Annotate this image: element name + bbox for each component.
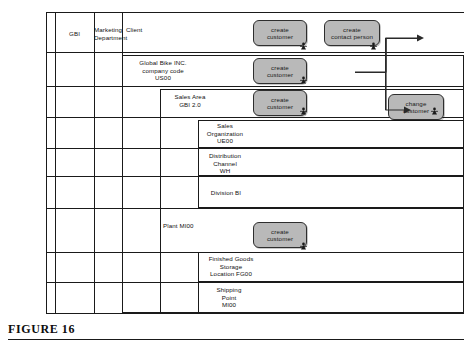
process-label-line2: customer xyxy=(267,33,293,40)
org-label-plant: Plant MI00 xyxy=(163,222,223,230)
actor-icon-create-customer-4 xyxy=(299,242,308,251)
org-label-sales-area-line1: Sales Area xyxy=(162,93,218,101)
connector-seg-b xyxy=(385,38,386,73)
org-label-sales-org-line2: Organization xyxy=(200,130,250,138)
org-label-shipping-line1: Shipping xyxy=(200,286,258,294)
process-label-line1: create xyxy=(267,228,293,235)
arrowhead-into-contact-person xyxy=(417,35,422,41)
org-label-dist-channel-line3: WH xyxy=(200,167,250,175)
org-label-storage-location: Finished Goods Storage Location FG00 xyxy=(200,255,262,278)
process-label-line2: contact person xyxy=(331,33,373,40)
process-label-line1: create xyxy=(267,96,293,103)
org-label-sales-org-line1: Sales xyxy=(200,122,250,130)
org-label-shipping-line3: MI00 xyxy=(200,301,258,309)
org-label-sales-org-line3: UE00 xyxy=(200,137,250,145)
lane-header-marketing-line1: Marketing xyxy=(94,26,122,34)
org-label-company-code: Global Bike INC. company code US00 xyxy=(124,59,202,82)
diagram-top-border xyxy=(46,12,464,13)
org-label-storage-line2: Storage xyxy=(200,263,262,271)
org-label-company-line2: company code xyxy=(124,67,202,75)
org-label-division-line1: Division BI xyxy=(200,189,252,197)
org-label-sales-organization: Sales Organization UE00 xyxy=(200,122,250,145)
org-label-company-line1: Global Bike INC. xyxy=(124,59,202,67)
org-label-sales-area: Sales Area GBI 2.0 xyxy=(162,93,218,108)
lane-divider-left xyxy=(46,12,47,313)
org-label-shipping-line2: Point xyxy=(200,294,258,302)
figure-caption: FIGURE 16 xyxy=(8,322,75,337)
org-label-plant-line1: Plant MI00 xyxy=(163,222,223,230)
figure-page: GBI Marketing Department Client Global B… xyxy=(0,0,464,343)
org-label-division: Division BI xyxy=(200,189,252,197)
org-label-shipping-point: Shipping Point MI00 xyxy=(200,286,258,309)
org-label-dist-channel-line2: Channel xyxy=(200,160,250,168)
org-label-dist-channel-line1: Distribution xyxy=(200,152,250,160)
connector-seg-a xyxy=(355,72,386,73)
diagram-bottom-border xyxy=(46,313,464,314)
process-label-line1: create xyxy=(267,64,293,71)
process-label-line2: customer xyxy=(267,103,293,110)
process-label-line1: change xyxy=(403,100,429,107)
lane-separator-1 xyxy=(46,52,464,53)
org-label-sales-area-line2: GBI 2.0 xyxy=(162,101,218,109)
process-label-line1: create xyxy=(331,26,373,33)
org-label-storage-line1: Finished Goods xyxy=(200,255,262,263)
caption-rule xyxy=(8,339,464,340)
org-label-storage-line3: Location FG00 xyxy=(200,270,262,278)
actor-icon-create-customer-1 xyxy=(299,42,308,51)
process-label-line1: create xyxy=(267,26,293,33)
lane-header-client: Client xyxy=(126,26,166,34)
actor-icon-change-customer xyxy=(430,107,439,116)
process-label-line2: customer xyxy=(267,71,293,78)
lane-divider-gbi-marketing xyxy=(55,12,56,313)
lane-header-marketing-department: Marketing Department xyxy=(94,26,122,41)
lane-header-marketing-line2: Department xyxy=(94,34,122,42)
connector-seg-c xyxy=(385,38,417,39)
lane-divider-marketing-client xyxy=(94,12,95,313)
process-label-line2: customer xyxy=(403,107,429,114)
org-label-distribution-channel: Distribution Channel WH xyxy=(200,152,250,175)
org-label-company-line3: US00 xyxy=(124,74,202,82)
process-label-line2: customer xyxy=(267,235,293,242)
actor-icon-create-customer-3 xyxy=(299,107,308,116)
actor-icon-create-contact-person xyxy=(369,42,378,51)
lane-header-gbi: GBI xyxy=(55,30,94,38)
actor-icon-create-customer-2 xyxy=(299,76,308,85)
